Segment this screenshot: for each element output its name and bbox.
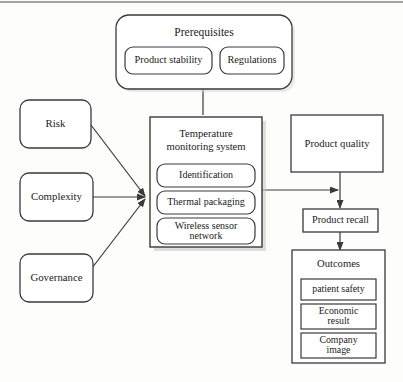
core-system-title-line2: monitoring system bbox=[166, 141, 246, 152]
connector-risk-to-core bbox=[91, 125, 145, 196]
driver-governance-group[interactable]: Governance bbox=[20, 254, 93, 302]
prerequisites-title: Prerequisites bbox=[174, 26, 234, 39]
core-component-wireless-sensor-network-label-line2: network bbox=[190, 230, 223, 241]
driver-risk-group[interactable]: Risk bbox=[20, 100, 91, 148]
core-component-thermal-packaging-label: Thermal packaging bbox=[167, 196, 244, 207]
driver-complexity-label: Complexity bbox=[31, 190, 83, 202]
core-component-wireless-sensor-network-label-line1: Wireless sensor bbox=[175, 220, 238, 231]
core-system-group[interactable]: Temperature monitoring system Identifica… bbox=[150, 117, 266, 251]
product-quality-label: Product quality bbox=[304, 138, 370, 149]
outcome-item-economic-result-label-line2: result bbox=[328, 315, 350, 326]
driver-governance-label: Governance bbox=[30, 271, 82, 283]
outcome-item-patient-safety-label: patient safety bbox=[312, 283, 365, 294]
prerequisite-item-regulations-label: Regulations bbox=[227, 54, 276, 65]
prerequisites-group[interactable]: Prerequisites Product stability Regulati… bbox=[116, 15, 295, 92]
outcomes-title: Outcomes bbox=[317, 258, 360, 269]
connector-governance-to-core bbox=[92, 199, 145, 268]
outcome-item-economic-result-label-line1: Economic bbox=[319, 305, 359, 316]
driver-risk-label: Risk bbox=[46, 117, 66, 129]
outcome-item-company-image-label-line2: image bbox=[327, 344, 352, 355]
core-system-title-line1: Temperature bbox=[179, 128, 233, 139]
outcome-item-company-image-label-line1: Company bbox=[319, 334, 357, 345]
product-recall-group[interactable]: Product recall bbox=[303, 209, 378, 232]
diagram-canvas: Prerequisites Product stability Regulati… bbox=[0, 0, 403, 382]
product-quality-group[interactable]: Product quality bbox=[291, 115, 383, 172]
core-component-identification-label: Identification bbox=[179, 169, 233, 180]
prerequisite-item-product-stability-label: Product stability bbox=[135, 54, 204, 65]
outcomes-group[interactable]: Outcomes patient safety Economic result … bbox=[292, 250, 385, 363]
product-recall-label: Product recall bbox=[312, 214, 369, 225]
driver-complexity-group[interactable]: Complexity bbox=[20, 173, 93, 221]
flow-diagram: Prerequisites Product stability Regulati… bbox=[0, 0, 403, 382]
